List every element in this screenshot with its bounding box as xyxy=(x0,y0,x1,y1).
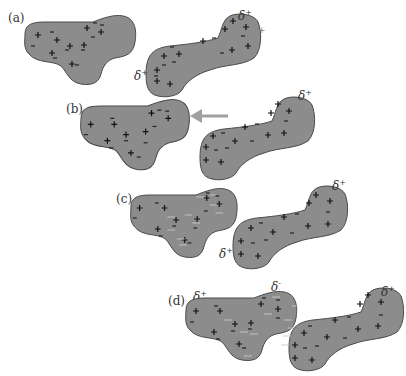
panel-label-b: (b) xyxy=(66,102,83,116)
molecule-b-left xyxy=(81,99,190,169)
molecule-a-left xyxy=(25,15,136,84)
molecule-d-right xyxy=(281,288,404,371)
panel-label-a: (a) xyxy=(8,11,25,25)
molecule-c-right xyxy=(233,186,348,269)
panel-label-c: (c) xyxy=(116,192,132,206)
panel-label-d: (d) xyxy=(168,294,185,308)
delta-plus-label: δ+ xyxy=(298,88,312,103)
panel-c: (c) xyxy=(116,178,348,269)
approach-arrow xyxy=(190,109,228,123)
panel-a: (a) xyxy=(8,8,266,97)
panel-d: (d) δ+ δ- xyxy=(168,279,404,371)
stray-charge: + xyxy=(258,25,266,35)
panel-b: (b) xyxy=(66,88,315,180)
delta-plus-label: δ+ xyxy=(219,246,233,261)
intermolecular-forces-diagram: (a) xyxy=(0,0,406,376)
molecule-b-right xyxy=(200,97,315,180)
molecule-a-right xyxy=(146,14,261,97)
molecule-d-left xyxy=(186,291,298,360)
delta-plus-label: δ+ xyxy=(332,178,346,193)
